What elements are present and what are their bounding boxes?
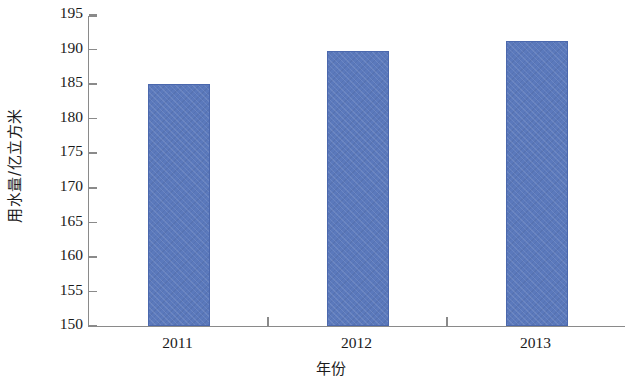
y-axis-tick-label: 190 (60, 38, 83, 58)
y-axis-tick: 195 (89, 14, 97, 16)
y-axis-tick: 175 (89, 152, 97, 154)
y-axis-tick: 165 (89, 222, 97, 224)
y-axis-tick: 155 (89, 291, 97, 293)
y-axis-title: 用水量/亿立方米 (0, 0, 26, 330)
bar-2011 (148, 84, 210, 326)
x-axis-tick (267, 317, 269, 326)
y-axis-tick-label: 195 (60, 3, 83, 23)
y-axis-tick: 185 (89, 83, 97, 85)
bar-chart-figure: 用水量/亿立方米 150155160165170175180185190195 … (0, 0, 640, 384)
y-axis-tick-label: 180 (60, 107, 83, 127)
x-axis-tick-label: 2011 (88, 334, 267, 352)
x-axis-tick-label: 2012 (267, 334, 446, 352)
y-axis-tick-label: 170 (60, 176, 83, 196)
y-axis-tick: 160 (89, 256, 97, 258)
y-axis-tick: 150 (89, 325, 97, 327)
x-axis-title: 年份 (0, 357, 640, 378)
bar-2012 (327, 51, 389, 326)
plot-area: 150155160165170175180185190195 (88, 16, 625, 327)
y-axis-tick-label: 155 (60, 280, 83, 300)
y-axis-tick-label: 160 (60, 245, 83, 265)
y-axis-title-label: 用水量/亿立方米 (3, 108, 24, 222)
x-axis-tick (446, 317, 448, 326)
y-axis-tick: 180 (89, 118, 97, 120)
y-axis-tick-label: 185 (60, 72, 83, 92)
y-axis-tick-label: 165 (60, 211, 83, 231)
y-axis-tick: 170 (89, 187, 97, 189)
bar-2013 (506, 41, 568, 326)
y-axis-tick: 190 (89, 49, 97, 51)
x-axis-tick-label: 2013 (446, 334, 625, 352)
y-axis-tick-label: 175 (60, 141, 83, 161)
y-axis-tick-label: 150 (60, 314, 83, 334)
x-axis-title-label: 年份 (316, 357, 347, 378)
